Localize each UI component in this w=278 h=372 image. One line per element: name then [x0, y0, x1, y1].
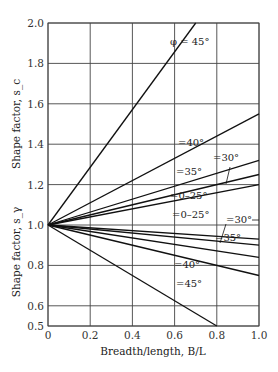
y-axis-label-upper: Shape factor, s_c	[10, 79, 23, 169]
series-label: =35°	[176, 166, 202, 177]
x-tick-label: 0.2	[82, 329, 99, 341]
y-tick-label: 1.6	[27, 98, 44, 110]
y-tick-label: 1.4	[27, 138, 44, 150]
series-label: =45°	[176, 278, 202, 289]
y-tick-label: 1.8	[27, 57, 44, 69]
x-tick-label: 0	[45, 329, 52, 341]
shape-factor-chart: 00.20.40.60.81.00.50.60.81.01.21.41.61.8…	[0, 0, 278, 372]
series-label: =35°	[215, 232, 241, 243]
series-label: φ = 45°	[170, 36, 209, 47]
series-lines	[48, 23, 259, 326]
y-axis-label-lower: Shape factor, s_γ	[10, 207, 23, 298]
series-label: =0–25°	[170, 190, 207, 201]
series-label: =0–25°	[172, 209, 209, 220]
x-tick-label: 0.4	[124, 329, 141, 341]
y-tick-label: 1.2	[27, 179, 44, 191]
x-axis-label: Breadth/length, B/L	[100, 345, 205, 357]
y-tick-label: 0.6	[27, 300, 44, 312]
tick-labels: 00.20.40.60.81.00.50.60.81.01.21.41.61.8…	[27, 17, 267, 341]
plot-frame	[48, 23, 259, 326]
y-tick-label: 0.5	[27, 320, 44, 332]
x-tick-label: 0.8	[208, 329, 225, 341]
series-label: =30°	[226, 214, 252, 225]
series-label: =40°	[174, 259, 200, 270]
y-tick-label: 2.0	[27, 17, 44, 29]
y-tick-label: 0.8	[27, 259, 44, 271]
x-tick-label: 1.0	[251, 329, 268, 341]
y-tick-label: 1.0	[27, 219, 44, 231]
grid	[48, 23, 259, 326]
x-tick-label: 0.6	[166, 329, 183, 341]
series-label: =40°	[178, 137, 204, 148]
series-label: =30°	[213, 152, 239, 163]
